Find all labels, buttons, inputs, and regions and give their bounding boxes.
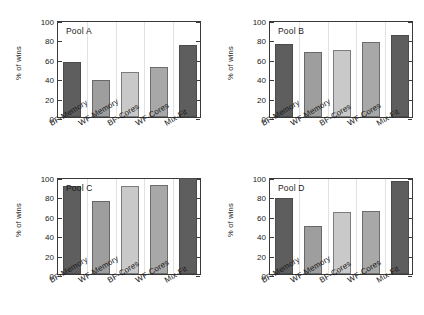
y-tick-label: 100 [41,175,54,184]
panel-label: Pool D [278,183,305,193]
chart-panel-pool-c: % of wins020406080100Pool CBF-MemoryWF-M… [0,157,212,314]
y-tick-label: 80 [257,194,266,203]
y-tick-label: 20 [257,252,266,261]
y-tick-label: 40 [257,76,266,85]
y-axis-label: % of wins [226,181,238,259]
x-axis-labels: BF-MemoryWF-MemoryBF-CoresWF-CoresMix-Fi… [269,277,413,313]
bar-mix-fit [391,181,409,274]
y-tick-label: 40 [257,233,266,242]
y-tick-label: 100 [253,18,266,27]
y-tick-label: 60 [45,213,54,222]
y-axis-label: % of wins [226,24,238,102]
bar-mix-fit [391,35,409,117]
x-axis-labels: BF-MemoryWF-MemoryBF-CoresWF-CoresMix-Fi… [57,277,201,313]
y-tick-label: 100 [41,18,54,27]
y-tick-label: 80 [45,194,54,203]
y-tick-label: 80 [257,37,266,46]
y-tick-label: 20 [45,95,54,104]
chart-panel-pool-d: % of wins020406080100Pool DBF-MemoryWF-M… [212,157,424,314]
y-tick-label: 60 [257,56,266,65]
panel-label: Pool B [278,26,304,36]
bar-mix-fit [179,178,197,274]
chart-panel-pool-b: % of wins020406080100Pool BBF-MemoryWF-M… [212,0,424,157]
panel-label: Pool C [66,183,93,193]
y-tick-label: 60 [45,56,54,65]
bar-mix-fit [179,45,197,117]
panel-label: Pool A [66,26,92,36]
y-tick-label: 60 [257,213,266,222]
y-tick-label: 100 [253,175,266,184]
y-axis-label: % of wins [14,181,26,259]
x-axis-labels: BF-MemoryWF-MemoryBF-CoresWF-CoresMix-Fi… [57,120,201,156]
y-tick-label: 40 [45,233,54,242]
y-tick-label: 40 [45,76,54,85]
y-axis-label: % of wins [14,24,26,102]
y-tick-label: 20 [257,95,266,104]
y-tick-label: 80 [45,37,54,46]
chart-panel-pool-a: % of wins020406080100Pool ABF-MemoryWF-M… [0,0,212,157]
x-axis-labels: BF-MemoryWF-MemoryBF-CoresWF-CoresMix-Fi… [269,120,413,156]
figure-canvas: % of wins020406080100Pool ABF-MemoryWF-M… [0,0,424,315]
y-tick-label: 20 [45,252,54,261]
